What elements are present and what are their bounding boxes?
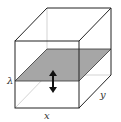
box-diagram: λ x y: [0, 0, 121, 122]
box-figure: λ x y: [0, 0, 121, 122]
x-label: x: [44, 110, 50, 121]
y-label: y: [99, 89, 106, 100]
shaded-plane: [15, 49, 111, 81]
lambda-label: λ: [6, 75, 13, 86]
